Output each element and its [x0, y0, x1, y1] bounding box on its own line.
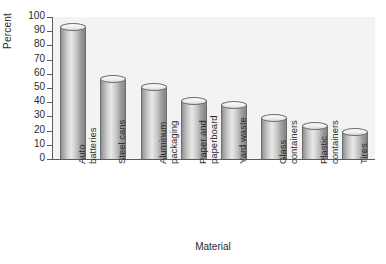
bar-top-cap — [60, 23, 86, 31]
y-axis-tick-mark — [47, 88, 53, 89]
x-axis-title: Material — [52, 241, 374, 252]
y-axis-tick-label: 80 — [15, 38, 45, 49]
y-axis-title: Percent — [2, 0, 13, 76]
y-axis-tick-mark — [47, 159, 53, 160]
bar-top-cap — [221, 101, 247, 109]
x-axis-tick-label: Auto batteries — [77, 128, 98, 164]
bar-chart: Percent 0102030405060708090100 Material … — [0, 0, 386, 264]
y-axis-tick-label: 100 — [15, 10, 45, 21]
y-axis-tick-label: 50 — [15, 81, 45, 92]
bar-top-cap — [342, 128, 368, 136]
y-axis-tick-label: 10 — [15, 138, 45, 149]
y-axis-tick-label: 30 — [15, 109, 45, 120]
x-axis-tick-label: Tires — [359, 143, 370, 164]
x-axis-tick-label: Yard waste — [238, 117, 249, 164]
x-axis-tick-label: Steel cans — [117, 120, 128, 164]
y-axis-tick-mark — [47, 102, 53, 103]
x-axis-tick-label: Paper and paperboard — [198, 115, 219, 164]
bar-top-cap — [181, 97, 207, 105]
y-axis-tick-mark — [47, 131, 53, 132]
bar-top-cap — [100, 75, 126, 83]
x-axis-tick-label: Plastic containers — [319, 120, 340, 164]
x-axis-tick-label: Aluminum packaging — [158, 121, 179, 164]
y-axis-tick-mark — [47, 145, 53, 146]
y-axis-tick-label: 90 — [15, 24, 45, 35]
x-axis-tick-label: Glass containers — [278, 120, 299, 164]
bar-top-cap — [141, 83, 167, 91]
y-axis-tick-mark — [47, 74, 53, 75]
y-axis-tick-mark — [47, 45, 53, 46]
y-axis-tick-mark — [47, 116, 53, 117]
y-axis-tick-mark — [47, 31, 53, 32]
y-axis-tick-label: 40 — [15, 95, 45, 106]
y-axis-tick-mark — [47, 60, 53, 61]
y-axis-tick-label: 60 — [15, 67, 45, 78]
y-axis-tick-mark — [47, 17, 53, 18]
y-axis-tick-label: 20 — [15, 124, 45, 135]
y-axis-tick-label: 0 — [15, 152, 45, 163]
y-axis-tick-label: 70 — [15, 53, 45, 64]
